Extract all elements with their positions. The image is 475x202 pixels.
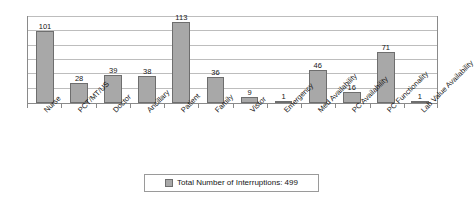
label-cell: Lab Value Availability <box>404 108 438 170</box>
label-cell: Ancillary <box>130 108 164 170</box>
label-cell: PCT/MT/US <box>61 108 95 170</box>
bar-value-label: 38 <box>143 67 151 76</box>
bar-slot: 28 <box>62 17 96 103</box>
bar-slot: 1 <box>267 17 301 103</box>
bar-value-label: 1 <box>418 92 422 101</box>
bar-slot: 101 <box>28 17 62 103</box>
label-cell: Patient <box>164 108 198 170</box>
bar-value-label: 71 <box>382 43 390 52</box>
label-cell: Nurse <box>27 108 61 170</box>
label-cell: Family <box>198 108 232 170</box>
bar-slot: 36 <box>198 17 232 103</box>
bar-value-label: 101 <box>39 22 52 31</box>
bar-value-label: 28 <box>75 74 83 83</box>
label-cell: Med Availability <box>301 108 335 170</box>
label-cell: Doctor <box>96 108 130 170</box>
label-cell: Vistor <box>233 108 267 170</box>
bar-slot: 38 <box>130 17 164 103</box>
legend-swatch-icon <box>165 179 173 187</box>
label-cell: PC Functionality <box>370 108 404 170</box>
bar-value-label: 113 <box>175 13 187 22</box>
legend-label: Total Number of Interruptions: 499 <box>177 178 298 188</box>
label-cell: Emergency <box>267 108 301 170</box>
bar-value-label: 39 <box>109 66 117 75</box>
chart-legend: Total Number of Interruptions: 499 <box>144 174 319 192</box>
bar-value-label: 36 <box>211 68 219 77</box>
bar-value-label: 9 <box>247 88 251 97</box>
bar-slot: 9 <box>232 17 266 103</box>
bar-value-label: 1 <box>281 92 285 101</box>
bar-value-label: 46 <box>313 61 321 70</box>
label-cell: PC Availability <box>335 108 369 170</box>
x-axis-labels: NursePCT/MT/USDoctorAncillaryPatientFami… <box>27 108 438 170</box>
bar-slot: 113 <box>164 17 198 103</box>
bar[interactable]: 113 <box>172 22 190 103</box>
bar[interactable]: 101 <box>36 31 54 103</box>
